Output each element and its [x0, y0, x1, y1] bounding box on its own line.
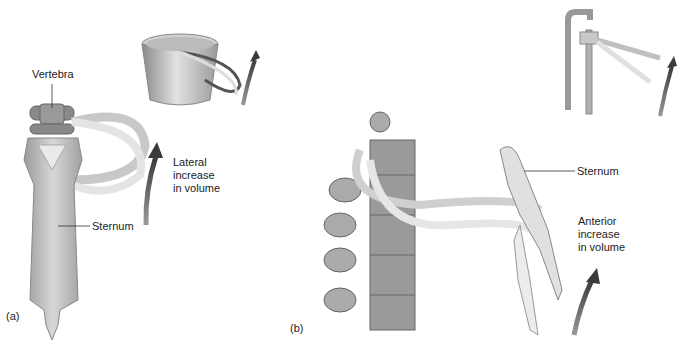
label-vertebra: Vertebra [32, 68, 74, 81]
lateral-arrow-icon [146, 156, 156, 225]
pump-arrow-icon [660, 66, 672, 116]
ribs-a [72, 117, 145, 191]
vertebra-a [30, 104, 74, 134]
label-lateral-increase: Lateral increase in volume [173, 156, 220, 195]
spine-b [324, 112, 415, 330]
panel-tag-b: (b) [290, 322, 303, 334]
anterior-arrow-icon [574, 280, 592, 335]
panel-tag-a: (a) [6, 310, 19, 322]
label-sternum-b: Sternum [577, 165, 619, 178]
pump-handle-illustration [568, 12, 660, 114]
bucket-illustration [142, 34, 240, 105]
label-sternum-a: Sternum [92, 220, 134, 233]
bucket-arrow-icon [243, 60, 255, 105]
label-anterior-increase: Anterior increase in volume [578, 215, 625, 254]
